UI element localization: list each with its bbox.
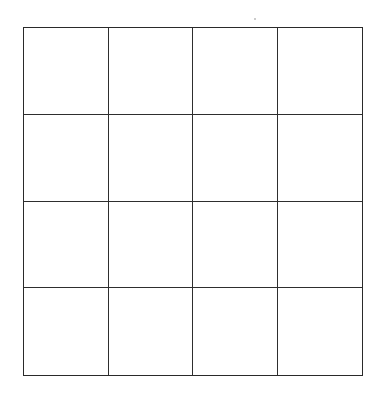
grid-cell-r4-c1 [24, 288, 109, 375]
grid-cell-r4-c4 [278, 288, 363, 375]
grid-cell-r2-c1 [24, 115, 109, 202]
grid-cell-r1-c1 [24, 28, 109, 115]
grid-cell-r1-c2 [109, 28, 194, 115]
grid-cell-r3-c4 [278, 202, 363, 289]
empty-4x4-grid [23, 27, 363, 376]
grid-cell-r1-c3 [193, 28, 278, 115]
grid-cell-r4-c3 [193, 288, 278, 375]
grid-cell-r2-c2 [109, 115, 194, 202]
grid-cell-r4-c2 [109, 288, 194, 375]
scan-speck [254, 18, 256, 20]
grid-cell-r3-c3 [193, 202, 278, 289]
grid-cell-r1-c4 [278, 28, 363, 115]
grid-cell-r3-c2 [109, 202, 194, 289]
grid-cell-r2-c3 [193, 115, 278, 202]
grid-cell-r3-c1 [24, 202, 109, 289]
grid-cell-r2-c4 [278, 115, 363, 202]
